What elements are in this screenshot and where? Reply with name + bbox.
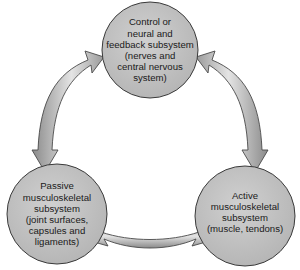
node-passive-line-3: subsystem [34,203,80,214]
node-active-line-4: (muscle, tendons) [207,223,283,234]
node-passive-line-4: (joint surfaces, [26,214,88,225]
node-passive-line-1: Passive [40,180,74,191]
arrow-control-passive [32,51,104,172]
arrow-control-active [196,51,268,172]
node-active-line-2: musculoskeletal [211,201,279,212]
node-passive-line-2: musculoskeletal [23,192,91,203]
node-active-line-1: Active [232,190,258,201]
node-control-label: Control or neural and feedback subsystem… [100,8,200,92]
node-active-line-3: subsystem [222,212,268,223]
node-passive-label: Passive musculoskeletal subsystem (joint… [7,174,107,254]
node-passive-line-5: capsules and [29,225,86,236]
node-control-line-1: Control or [129,16,171,27]
node-control-line-3: feedback subsystem [106,39,193,50]
node-active-label: Active musculoskeletal subsystem (muscle… [195,182,295,242]
node-control-line-4: (nerves and [125,50,176,61]
node-control-line-6: system) [133,72,167,83]
node-passive-line-6: ligaments) [35,236,79,247]
node-control-line-2: neural and [127,28,172,39]
node-control-line-5: central nervous [117,61,183,72]
